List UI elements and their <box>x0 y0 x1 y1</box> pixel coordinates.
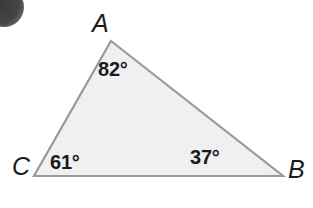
triangle-svg <box>0 0 313 208</box>
vertex-label-c: C <box>12 154 30 179</box>
angle-measure-c: 61° <box>50 152 80 172</box>
vertex-label-a: A <box>92 11 109 36</box>
triangle-figure: A B C 82° 37° 61° <box>0 0 313 208</box>
angle-measure-b: 37° <box>190 147 220 167</box>
angle-measure-a: 82° <box>98 59 128 79</box>
vertex-label-b: B <box>288 157 305 182</box>
